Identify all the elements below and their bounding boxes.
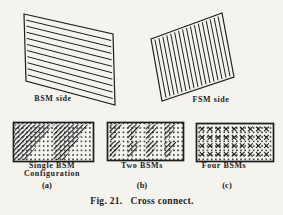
config-b-label-line1: Two BSMs xyxy=(102,162,182,170)
figure-caption: Fig. 21. Cross connect. xyxy=(42,196,242,207)
bsm-stripe xyxy=(26,26,111,47)
bsm-stripe xyxy=(27,38,112,59)
config-a-tag: (a) xyxy=(7,181,87,190)
bsm-stripe xyxy=(28,69,113,92)
config-b-tag: (b) xyxy=(102,181,182,190)
panel-stripes-layer xyxy=(26,16,230,98)
bsm-side-label: BSM side xyxy=(13,95,93,103)
figure-21-cross-connect: BSM side FSM side Single BSM Configurati… xyxy=(0,0,283,215)
bsm-stripe xyxy=(27,32,112,53)
fsm-side-label: FSM side xyxy=(171,96,251,104)
config-b-label: Two BSMs xyxy=(102,162,182,170)
bsm-stripe xyxy=(27,63,112,86)
config-c-tag: (c) xyxy=(187,181,267,190)
bsm-stripe xyxy=(27,44,112,66)
bsm-stripe xyxy=(27,51,112,73)
bsm-stripe xyxy=(27,57,112,80)
config-a-label: Single BSM Configuration xyxy=(12,162,92,177)
config-a-label-line2: Configuration xyxy=(12,170,92,178)
config-c-label-line1: Four BSMs xyxy=(184,162,264,170)
config-c-label: Four BSMs xyxy=(184,162,264,170)
